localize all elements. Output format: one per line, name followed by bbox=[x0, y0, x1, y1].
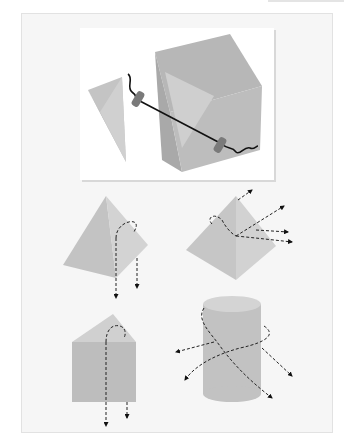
cylinder-spiral-panel bbox=[176, 296, 292, 402]
pyramid-scatter-panel bbox=[186, 190, 292, 280]
diagram-canvas bbox=[0, 0, 344, 444]
prism-down-panel bbox=[72, 314, 136, 426]
pyramid-down-panel bbox=[63, 196, 148, 298]
cube bbox=[155, 34, 262, 172]
wedge-prism bbox=[88, 77, 126, 162]
fiber-coupling-panel bbox=[88, 34, 262, 172]
